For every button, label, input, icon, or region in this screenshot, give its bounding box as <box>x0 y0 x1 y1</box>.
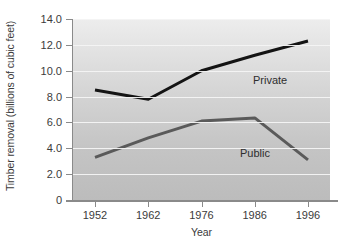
x-tick-label: 1996 <box>278 209 338 222</box>
x-axis-title: Year <box>73 226 330 239</box>
x-tick-label: 1976 <box>172 209 232 222</box>
y-axis-tick-labels: 14.012.010.08.06.04.02.00 <box>18 12 62 204</box>
gridline <box>73 45 330 46</box>
y-tick-label: 10.0 <box>18 65 62 77</box>
x-tick-mark <box>148 201 149 207</box>
x-tick-label: 1952 <box>65 209 125 222</box>
y-tick-label: 6.0 <box>18 116 62 128</box>
series-label-private: Private <box>253 74 287 87</box>
y-tick-label: 2.0 <box>18 168 62 180</box>
series-line-public <box>95 118 308 160</box>
x-tick-label: 1962 <box>118 209 178 222</box>
series-label-public: Public <box>240 147 270 160</box>
y-tick-mark <box>66 45 73 46</box>
gridline <box>73 122 330 123</box>
y-tick-mark <box>66 200 73 201</box>
y-tick-label: 0 <box>18 194 62 206</box>
y-tick-label: 8.0 <box>18 91 62 103</box>
x-tick-mark <box>308 201 309 207</box>
timber-removal-line-chart: Timber removal (billions of cubic feet) … <box>0 0 350 249</box>
x-tick-mark <box>202 201 203 207</box>
gridline <box>73 97 330 98</box>
y-tick-label: 4.0 <box>18 142 62 154</box>
y-tick-mark <box>66 97 73 98</box>
y-tick-mark <box>66 148 73 149</box>
x-tick-mark <box>255 201 256 207</box>
y-tick-label: 14.0 <box>18 13 62 25</box>
y-tick-mark <box>66 71 73 72</box>
gridline <box>73 174 330 175</box>
y-axis-title: Timber removal (billions of cubic feet) <box>3 6 17 206</box>
series-lines <box>73 19 330 200</box>
y-tick-mark <box>66 19 73 20</box>
y-tick-mark <box>66 122 73 123</box>
x-tick-mark <box>95 201 96 207</box>
x-tick-label: 1986 <box>225 209 285 222</box>
y-tick-mark <box>66 174 73 175</box>
gridline <box>73 19 330 20</box>
y-tick-label: 12.0 <box>18 39 62 51</box>
gridline <box>73 148 330 149</box>
gridline <box>73 71 330 72</box>
plot-area: Private Public <box>73 19 330 200</box>
